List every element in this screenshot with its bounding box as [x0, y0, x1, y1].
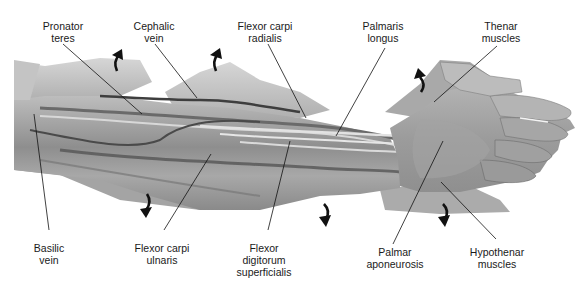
label-line: Thenar: [482, 20, 521, 32]
label-basilic-vein: Basilic vein: [34, 242, 64, 266]
label-line: Flexor carpi: [135, 242, 190, 254]
label-line: teres: [43, 32, 83, 44]
label-flexor-carpi-radialis: Flexor carpi radialis: [238, 20, 293, 44]
label-pronator-teres: Pronator teres: [43, 20, 83, 44]
label-line: ulnaris: [135, 254, 190, 266]
label-line: Hypothenar: [470, 246, 524, 258]
label-cephalic-vein: Cephalic vein: [134, 20, 175, 44]
leader-palmaris-longus: [336, 48, 385, 136]
label-line: muscles: [482, 32, 521, 44]
label-flexor-digitorum-superficialis: Flexor digitorum superficialis: [237, 242, 292, 278]
label-line: Cephalic: [134, 20, 175, 32]
label-line: radialis: [238, 32, 293, 44]
label-line: vein: [34, 254, 64, 266]
label-palmaris-longus: Palmaris longus: [363, 20, 404, 44]
arrow-down-icon: [319, 204, 331, 227]
label-flexor-carpi-ulnaris: Flexor carpi ulnaris: [135, 242, 190, 266]
label-line: vein: [134, 32, 175, 44]
label-line: superficialis: [237, 266, 292, 278]
label-line: Flexor carpi: [238, 20, 293, 32]
label-line: aponeurosis: [366, 258, 423, 270]
label-line: Flexor: [237, 242, 292, 254]
label-line: Basilic: [34, 242, 64, 254]
label-line: Palmar: [366, 246, 423, 258]
label-line: longus: [363, 32, 404, 44]
label-palmar-aponeurosis: Palmar aponeurosis: [366, 246, 423, 270]
label-line: muscles: [470, 258, 524, 270]
anatomy-figure: Pronator teres Cephalic vein Flexor carp…: [0, 0, 584, 282]
hand: [390, 62, 575, 192]
label-thenar-muscles: Thenar muscles: [482, 20, 521, 44]
label-line: Palmaris: [363, 20, 404, 32]
label-line: digitorum: [237, 254, 292, 266]
label-hypothenar-muscles: Hypothenar muscles: [470, 246, 524, 270]
label-line: Pronator: [43, 20, 83, 32]
